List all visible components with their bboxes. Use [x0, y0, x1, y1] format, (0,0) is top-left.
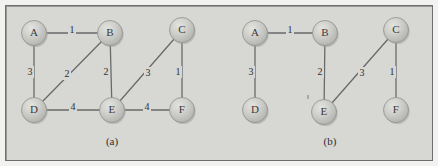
edge-weight-label: 2	[104, 66, 109, 77]
captions-layer: (a)(b)	[106, 135, 337, 148]
graph-canvas: ABCDEFABCDEF 1322314413231 (a)(b)	[0, 0, 438, 166]
edge-weight-label: 3	[360, 67, 365, 78]
graph-node-b[interactable]: B	[98, 21, 124, 48]
subfigure-caption: (b)	[324, 135, 337, 148]
edge-weight-c-f: 1	[388, 66, 396, 78]
node-label: F	[393, 103, 399, 115]
edge-weight-label: 1	[176, 66, 181, 77]
edge-weight-a-d: 3	[26, 66, 34, 78]
edges-layer	[34, 33, 396, 110]
figure-frame: ABCDEFABCDEF 1322314413231 (a)(b)	[0, 0, 438, 166]
edge-weight-label: 3	[28, 66, 33, 77]
edge-weight-label: 4	[145, 101, 150, 112]
edge-weight-label: 2	[65, 68, 70, 79]
node-label: D	[251, 103, 259, 115]
edge-weight-label: 4	[71, 101, 76, 112]
edge-weight-c-e: 3	[144, 67, 152, 79]
graph-node-a[interactable]: A	[22, 21, 48, 48]
edge-weight-b-d: 2	[63, 68, 71, 80]
node-label: B	[106, 26, 114, 38]
graph-node-e[interactable]: E	[100, 98, 126, 125]
edge-weight-a-d: 3	[247, 66, 255, 78]
node-label: A	[30, 26, 38, 38]
node-label: F	[179, 103, 185, 115]
edge-weight-label: 3	[146, 67, 151, 78]
edge-weight-d-e: 4	[69, 101, 77, 113]
graph-node-d[interactable]: D	[22, 98, 48, 125]
graph-node-f[interactable]: F	[384, 98, 410, 125]
node-label: C	[178, 23, 186, 35]
node-label: A	[251, 26, 259, 38]
node-label: D	[30, 103, 38, 115]
graph-edge-b-e	[110, 44, 111, 99]
subfigure-caption: (a)	[106, 135, 119, 148]
graph-node-a[interactable]: A	[243, 21, 269, 48]
graph-node-f[interactable]: F	[170, 98, 196, 125]
node-label: E	[109, 103, 116, 115]
graph-edge-b-d	[42, 41, 103, 102]
graph-node-b[interactable]: B	[313, 21, 339, 48]
edge-weights-layer: 1322314413231	[26, 24, 396, 113]
graph-edge-b-e	[324, 44, 325, 101]
edge-weight-b-e: 2	[102, 66, 110, 78]
node-label: B	[321, 26, 329, 38]
edge-weight-a-b: 1	[286, 24, 294, 36]
edge-weight-c-f: 1	[174, 66, 182, 78]
edge-weight-label: 1	[288, 24, 293, 35]
edge-weight-b-e: 2	[316, 66, 324, 78]
node-label: C	[392, 23, 400, 35]
edge-weight-label: 2	[318, 66, 323, 77]
edge-weight-c-e: 3	[358, 67, 366, 79]
edge-weight-a-b: 1	[68, 24, 76, 36]
graph-node-d[interactable]: D	[243, 98, 269, 125]
node-label: E	[321, 105, 328, 117]
edge-weight-e-f: 4	[143, 101, 151, 113]
edge-weight-label: 1	[390, 66, 395, 77]
edge-weight-label: 1	[70, 24, 75, 35]
graph-node-e[interactable]: E	[312, 100, 338, 127]
edge-weight-label: 3	[249, 66, 254, 77]
